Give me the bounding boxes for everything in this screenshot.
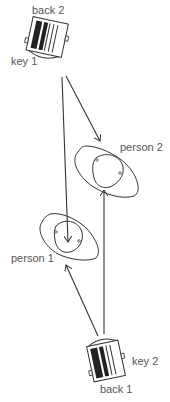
label-key-1: key 1 <box>11 56 37 67</box>
label-key-2: key 2 <box>132 356 158 367</box>
arrow-top-device-to-person2 <box>66 76 100 141</box>
label-person-2: person 2 <box>120 142 163 153</box>
label-back-1: back 1 <box>100 384 132 395</box>
arrow-bottom-device-to-person1 <box>66 265 98 336</box>
bottom-device-icon <box>83 336 128 383</box>
label-back-2: back 2 <box>32 5 64 16</box>
person-2-icon <box>75 146 138 197</box>
label-person-1: person 1 <box>11 253 54 264</box>
